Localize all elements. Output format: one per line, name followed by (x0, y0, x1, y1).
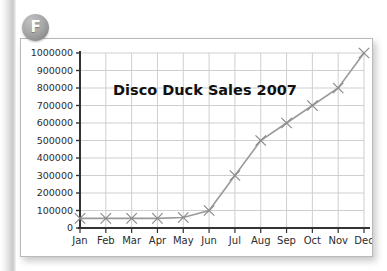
figure-badge-label: F (30, 20, 40, 35)
line-chart: 0100000200000300000400000500000600000700… (21, 39, 372, 256)
x-axis-tick-label: Jul (228, 235, 241, 246)
x-axis-tick-label: Sep (277, 235, 296, 246)
y-axis-tick-label: 700000 (37, 100, 73, 111)
x-axis-tick-label: Apr (149, 235, 167, 246)
y-axis-tick-label: 800000 (37, 82, 73, 93)
screenshot-root: 0100000200000300000400000500000600000700… (0, 0, 387, 271)
y-axis-tick-label: 500000 (37, 135, 73, 146)
chart-card: 0100000200000300000400000500000600000700… (20, 38, 373, 257)
y-axis-tick-label: 900000 (37, 65, 73, 76)
x-axis-tick-label: Nov (328, 235, 348, 246)
figure-badge: F (22, 14, 49, 41)
x-axis-tick-label: Aug (251, 235, 271, 246)
y-axis-tick-label: 100000 (37, 205, 73, 216)
x-axis-tick-label: Mar (122, 235, 142, 246)
y-axis-tick-label: 400000 (37, 152, 73, 163)
series-line (80, 53, 364, 218)
y-axis-tick-label: 200000 (37, 187, 73, 198)
y-axis-tick-label: 600000 (37, 117, 73, 128)
x-axis-tick-label: Feb (97, 235, 115, 246)
y-axis-tick-label: 1000000 (31, 47, 73, 58)
page-gutter-shading (0, 0, 16, 271)
x-axis-tick-label: May (173, 235, 194, 246)
y-axis-tick-label: 0 (67, 222, 73, 233)
chart-title: Disco Duck Sales 2007 (113, 82, 297, 98)
x-axis-tick-label: Jun (200, 235, 217, 246)
x-axis-tick-label: Oct (304, 235, 321, 246)
y-axis-tick-label: 300000 (37, 170, 73, 181)
chart-canvas: 0100000200000300000400000500000600000700… (21, 39, 372, 256)
x-axis-tick-label: Jan (71, 235, 87, 246)
x-axis-tick-label: Dec (354, 235, 372, 246)
